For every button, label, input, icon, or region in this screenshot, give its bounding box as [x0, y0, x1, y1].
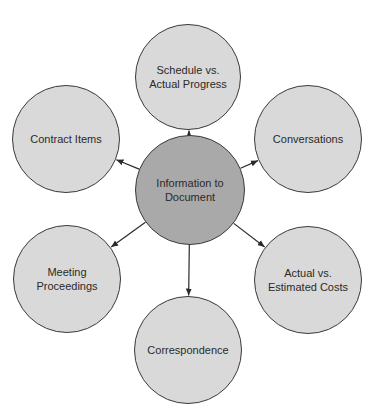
node-label: Conversations [273, 132, 343, 146]
arrow-to-conversations [240, 161, 257, 169]
node-meeting-proceedings: Meeting Proceedings [13, 225, 121, 333]
arrow-to-meeting-proceedings [111, 222, 145, 247]
center-node-label: Information to Document [156, 176, 223, 204]
node-label: Actual vs. Estimated Costs [268, 266, 348, 294]
node-label: Meeting Proceedings [36, 265, 97, 293]
node-correspondence: Correspondence [134, 296, 242, 404]
node-label: Contract Items [30, 132, 102, 146]
node-contract-items: Contract Items [12, 85, 120, 193]
node-actual-vs-estimated-costs: Actual vs. Estimated Costs [254, 226, 362, 334]
node-schedule-vs-actual-progress: Schedule vs. Actual Progress [135, 24, 241, 130]
node-label: Schedule vs. Actual Progress [149, 63, 227, 91]
arrow-to-contract-items [116, 160, 139, 169]
node-conversations: Conversations [254, 85, 362, 193]
center-node-information-to-document: Information to Document [135, 135, 245, 245]
arrow-to-correspondence [189, 245, 190, 296]
node-label: Correspondence [147, 343, 228, 357]
arrow-to-actual-vs-estimated [234, 223, 265, 247]
